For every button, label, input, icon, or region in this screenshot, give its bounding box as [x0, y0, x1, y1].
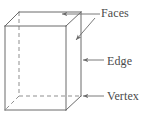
leader-faces-to-right-face	[76, 18, 95, 40]
prism-diagram: Faces Edge Vertex	[0, 0, 146, 123]
hidden-edges-group	[5, 12, 81, 110]
edge-bottom-right-depth	[66, 96, 81, 110]
edge-top-left-depth	[5, 12, 19, 26]
label-vertex: Vertex	[107, 90, 139, 102]
visible-edges-group	[5, 12, 81, 110]
label-faces: Faces	[101, 7, 129, 19]
leader-lines-group	[62, 14, 104, 96]
label-edge: Edge	[107, 55, 132, 67]
hidden-edge-bottom-left-depth	[5, 96, 19, 110]
